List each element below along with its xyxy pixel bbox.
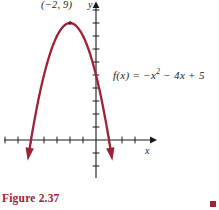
right-branch-arrowhead (106, 147, 114, 161)
parabola-right-branch (70, 23, 110, 148)
function-equation-prefix: f(x) = −x (113, 69, 156, 81)
y-axis-arrowhead (93, 2, 100, 9)
x-axis-arrowhead (150, 137, 157, 144)
vertex-point (68, 21, 71, 24)
figure-container: (−2, 9) y x f(x) = −x2 − 4x + 5 Figure 2… (0, 0, 219, 210)
parabola-plot (0, 0, 219, 185)
y-axis-label: y (88, 0, 92, 10)
left-branch-arrowhead (26, 147, 34, 161)
corner-square-mark (210, 201, 216, 207)
vertex-coordinate-label: (−2, 9) (41, 0, 72, 11)
x-axis-label: x (145, 146, 149, 156)
figure-caption: Figure 2.37 (2, 192, 60, 204)
parabola-left-branch (30, 23, 70, 148)
function-equation-suffix: − 4x + 5 (160, 69, 204, 81)
function-equation-label: f(x) = −x2 − 4x + 5 (113, 70, 205, 81)
